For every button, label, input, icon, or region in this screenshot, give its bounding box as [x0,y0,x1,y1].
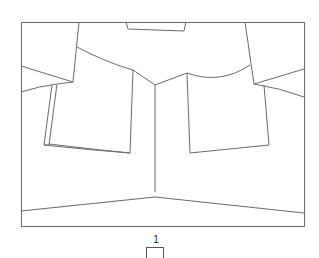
page-bracket-icon [146,247,164,258]
left-upper-panel [21,22,79,82]
left-ceiling-curve [77,47,133,70]
frame [22,23,305,227]
line-sketch [0,0,319,258]
center-junction [133,70,187,85]
right-upper-panel [245,22,304,84]
right-board [187,73,269,153]
floor-line [21,197,304,213]
right-ceiling-curve [187,65,250,78]
top-notch [126,22,186,31]
left-board-edge [44,85,52,145]
page-number: 1 [150,233,162,245]
